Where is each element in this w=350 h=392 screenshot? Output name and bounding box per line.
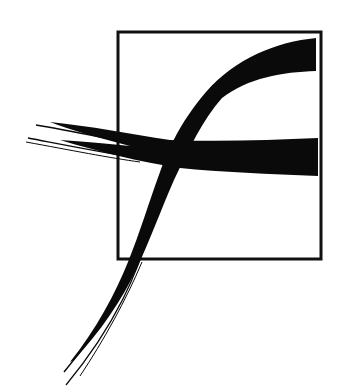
brush-f-logo <box>0 0 350 392</box>
